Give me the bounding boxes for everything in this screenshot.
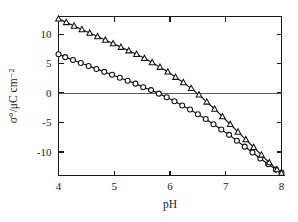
data-point-circle — [250, 150, 255, 155]
data-point-triangle — [173, 74, 179, 79]
data-point-triangle — [95, 33, 101, 38]
data-point-circle — [56, 52, 61, 57]
data-point-circle — [188, 107, 193, 112]
y-tick-label: 0 — [46, 87, 52, 99]
data-point-triangle — [87, 30, 93, 35]
x-tick-label: 7 — [223, 180, 229, 192]
data-point-circle — [164, 95, 169, 100]
y-tick-label: 10 — [41, 28, 53, 40]
y-axis-title: σ°/μC cm⁻² — [7, 68, 20, 123]
data-point-circle — [133, 81, 138, 86]
data-point-triangle — [188, 85, 194, 90]
surface-charge-vs-ph-plot: 45678-10-50510pHσ°/μC cm⁻² — [0, 0, 298, 222]
data-point-circle — [110, 72, 115, 77]
data-point-circle — [70, 58, 75, 63]
data-point-circle — [125, 78, 130, 83]
data-point-circle — [78, 61, 83, 66]
data-point-circle — [172, 99, 177, 104]
x-tick-label: 8 — [279, 180, 285, 192]
data-point-triangle — [71, 23, 77, 28]
y-tick-label: -5 — [42, 116, 52, 128]
data-point-triangle — [134, 51, 140, 56]
data-point-triangle — [126, 48, 132, 53]
data-point-triangle — [157, 64, 163, 69]
data-point-circle — [102, 69, 107, 74]
data-point-circle — [227, 132, 232, 137]
data-point-triangle — [79, 26, 85, 31]
data-point-triangle — [102, 37, 108, 42]
x-tick-label: 4 — [56, 180, 62, 192]
data-point-circle — [63, 55, 68, 60]
data-point-circle — [94, 66, 99, 71]
x-axis-title: pH — [163, 198, 177, 211]
data-point-circle — [141, 85, 146, 90]
data-point-triangle — [165, 69, 171, 74]
chart-figure: 45678-10-50510pHσ°/μC cm⁻² — [0, 0, 298, 222]
data-point-circle — [156, 91, 161, 96]
data-point-triangle — [181, 79, 187, 84]
y-tick-label: 5 — [46, 57, 52, 69]
data-point-circle — [117, 75, 122, 80]
data-point-circle — [234, 138, 239, 143]
data-point-triangle — [63, 19, 69, 24]
x-tick-label: 5 — [112, 180, 118, 192]
data-point-triangle — [110, 40, 116, 45]
data-point-circle — [195, 112, 200, 117]
data-point-circle — [180, 103, 185, 108]
y-tick-label: -10 — [37, 146, 52, 158]
x-tick-label: 6 — [167, 180, 173, 192]
data-point-circle — [219, 127, 224, 132]
data-point-circle — [86, 63, 91, 68]
data-point-circle — [149, 88, 154, 93]
data-point-triangle — [118, 44, 124, 49]
data-point-circle — [211, 122, 216, 127]
data-point-circle — [203, 116, 208, 121]
data-point-triangle — [142, 55, 148, 60]
data-point-triangle — [149, 59, 155, 64]
plot-frame — [59, 17, 282, 176]
data-point-circle — [242, 144, 247, 149]
series-line-triangles — [59, 19, 282, 173]
